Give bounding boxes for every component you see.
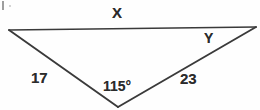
triangle-figure: X Y 17 115° 23 bbox=[0, 0, 260, 110]
side-label-17: 17 bbox=[31, 70, 48, 85]
scan-artifact-speck bbox=[9, 5, 11, 7]
angle-label-115-degrees: 115° bbox=[103, 79, 131, 93]
triangle-side-top bbox=[9, 27, 256, 30]
triangle-side-right bbox=[118, 27, 256, 107]
triangle-side-left bbox=[9, 30, 118, 107]
side-label-23: 23 bbox=[180, 71, 197, 86]
side-label-x: X bbox=[112, 5, 122, 20]
scan-artifact-mark bbox=[2, 1, 4, 10]
angle-label-y: Y bbox=[204, 31, 213, 45]
